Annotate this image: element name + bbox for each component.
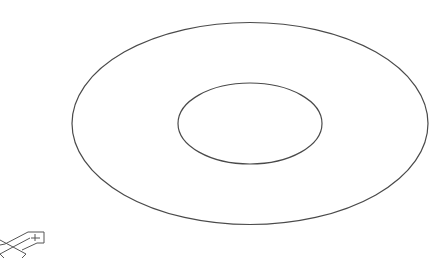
ucs-icon (0, 226, 50, 258)
ucs-arm-lower (13, 238, 30, 247)
drawing-viewport[interactable] (0, 0, 448, 258)
inner-ellipse[interactable] (178, 83, 322, 164)
ucs-rhombus-edge (13, 247, 26, 254)
drawing-canvas (0, 0, 448, 258)
outer-ellipse[interactable] (72, 23, 428, 225)
ucs-arm-upper (5, 232, 28, 244)
ucs-rhombus-left (0, 240, 13, 254)
